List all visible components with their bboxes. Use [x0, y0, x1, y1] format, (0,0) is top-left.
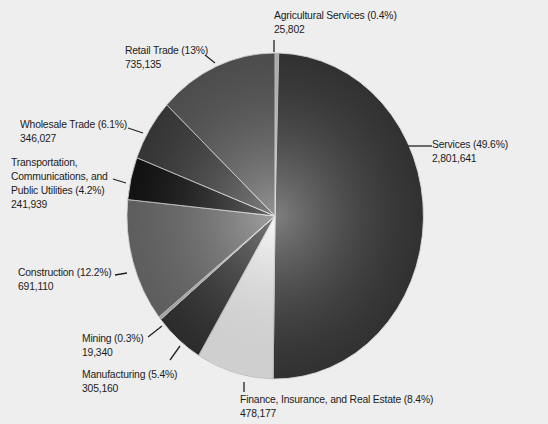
label-value: 19,340 — [82, 345, 144, 359]
label-agricultural-services: Agricultural Services (0.4%) 25,802 — [274, 8, 397, 36]
label-wholesale-trade: Wholesale Trade (6.1%) 346,027 — [20, 117, 127, 145]
leader-wholesale — [128, 128, 143, 133]
pie-slices — [127, 53, 423, 379]
label-title: Wholesale Trade (6.1%) — [20, 117, 127, 131]
label-title: Mining (0.3%) — [82, 331, 144, 345]
label-title: Finance, Insurance, and Real Estate (8.4… — [240, 392, 433, 406]
label-value: 478,177 — [240, 406, 433, 420]
label-mining: Mining (0.3%) 19,340 — [82, 331, 144, 359]
label-title: Agricultural Services (0.4%) — [274, 8, 397, 22]
label-title: Retail Trade (13%) — [125, 43, 208, 57]
leader-construction — [115, 273, 127, 275]
pie-shading — [127, 53, 423, 379]
label-retail-trade: Retail Trade (13%) 735,135 — [125, 43, 208, 71]
leader-transportation — [113, 179, 126, 183]
label-finance: Finance, Insurance, and Real Estate (8.4… — [240, 392, 433, 420]
label-transportation: Transportation, Communications, and Publ… — [11, 155, 108, 211]
label-value: 305,160 — [82, 381, 177, 395]
label-title-line3: Public Utilities (4.2%) — [11, 183, 108, 197]
label-title: Manufacturing (5.4%) — [82, 367, 177, 381]
label-value: 346,027 — [20, 131, 127, 145]
label-title-line1: Transportation, — [11, 155, 108, 169]
leader-mining — [148, 326, 162, 337]
label-value: 25,802 — [274, 22, 397, 36]
label-value: 691,110 — [18, 279, 112, 293]
label-value: 2,801,641 — [432, 151, 508, 165]
label-services: Services (49.6%) 2,801,641 — [432, 137, 508, 165]
pie-chart — [0, 0, 548, 424]
leader-manufacturing — [170, 346, 180, 360]
label-title: Services (49.6%) — [432, 137, 508, 151]
label-title: Construction (12.2%) — [18, 265, 112, 279]
label-value: 241,939 — [11, 197, 108, 211]
label-title-line2: Communications, and — [11, 169, 108, 183]
label-value: 735,135 — [125, 57, 208, 71]
label-manufacturing: Manufacturing (5.4%) 305,160 — [82, 367, 177, 395]
label-construction: Construction (12.2%) 691,110 — [18, 265, 112, 293]
